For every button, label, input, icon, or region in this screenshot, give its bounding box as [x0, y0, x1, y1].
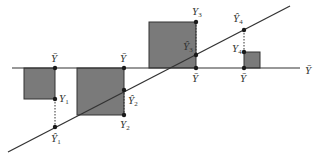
- observed-label-4: Y4: [232, 42, 242, 56]
- observed-label-1: Y1: [59, 92, 69, 106]
- fitted-label-1: Ŷ1: [51, 132, 61, 146]
- mean-point-1: [53, 66, 57, 70]
- regression-decomposition-diagram: ȲY1Ŷ1ȲY2Ŷ2ȲY3Ŷ3ȲY4Ŷ4 Ȳ: [0, 0, 315, 154]
- deviation-square-2: [77, 68, 124, 115]
- observed-point-4: [242, 50, 246, 54]
- mean-axis-label: Ȳ: [305, 64, 313, 76]
- mean-point-3: [194, 66, 198, 70]
- mean-point-2: [122, 66, 126, 70]
- fitted-label-4: Ŷ4: [233, 12, 243, 26]
- deviation-square-1: [24, 68, 55, 99]
- mean-label-4: Ȳ: [240, 72, 248, 84]
- observed-label-2: Y2: [120, 118, 130, 132]
- fitted-label-2: Ŷ2: [128, 94, 138, 108]
- mean-point-4: [242, 66, 246, 70]
- mean-label-1: Ȳ: [51, 52, 59, 64]
- mean-label-3: Ȳ: [192, 72, 200, 84]
- observed-point-1: [53, 97, 57, 101]
- fitted-point-1: [53, 125, 57, 129]
- mean-label-2: Ȳ: [120, 52, 128, 64]
- observed-point-3: [194, 20, 198, 24]
- fitted-point-4: [242, 28, 246, 32]
- observed-label-3: Y3: [192, 5, 202, 19]
- deviation-square-4: [244, 52, 260, 68]
- fitted-point-2: [122, 88, 126, 92]
- fitted-point-3: [194, 53, 198, 57]
- observed-point-2: [122, 113, 126, 117]
